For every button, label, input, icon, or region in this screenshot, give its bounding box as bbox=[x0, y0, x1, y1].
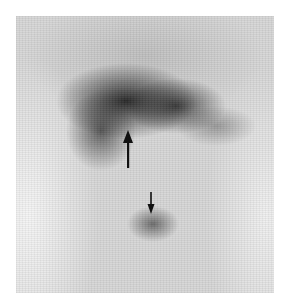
image-noise-texture bbox=[16, 16, 274, 293]
large-up-arrow-icon bbox=[122, 130, 134, 168]
scintigraphy-image bbox=[16, 16, 274, 293]
small-down-arrow-icon bbox=[147, 192, 155, 214]
